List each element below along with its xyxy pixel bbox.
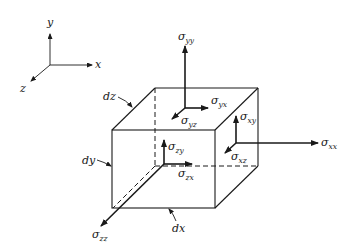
sigma-zz-arrow — [101, 164, 164, 226]
dx-label: dx — [172, 222, 186, 235]
sigma-zx-label: σzx — [178, 167, 194, 182]
sigma-zy-label: σzy — [168, 140, 184, 155]
sigma-zz-label: σzz — [92, 228, 107, 243]
y-axis-label: y — [46, 16, 54, 29]
dz-label: dz — [103, 90, 116, 103]
x-axis-label: x — [95, 58, 102, 71]
diagram-canvas: y x z dz dy dx σyy σyx σyz — [0, 0, 350, 248]
sigma-yy-label: σyy — [178, 30, 195, 45]
sigma-xz-label: σxz — [231, 150, 247, 165]
x-face-stresses: σxy σxx σxz — [225, 110, 338, 165]
dy-label: dy — [82, 154, 96, 167]
dimension-labels: dz dy dx — [82, 90, 186, 235]
sigma-yx-label: σyx — [211, 94, 228, 109]
coordinate-axes: y x z — [19, 16, 102, 95]
sigma-xx-label: σxx — [321, 136, 338, 151]
z-axis-arrow — [31, 65, 50, 81]
sigma-xy-label: σxy — [240, 110, 257, 125]
sigma-yz-label: σyz — [181, 114, 197, 129]
z-axis-label: z — [19, 82, 26, 95]
stress-element-diagram: y x z dz dy dx σyy σyx σyz — [0, 0, 350, 248]
y-face-stresses: σyy σyx σyz — [172, 30, 228, 129]
